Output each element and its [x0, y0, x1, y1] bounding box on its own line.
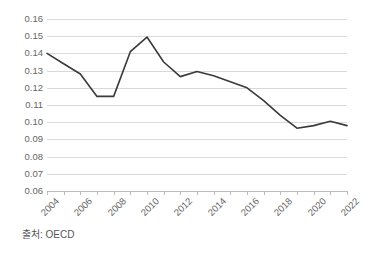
y-axis-tick-label: 0.10	[3, 117, 43, 127]
x-axis-tick-mark	[114, 191, 115, 195]
y-axis-tick-label: 0.11	[3, 100, 43, 110]
x-axis-tick-label: 2022	[333, 196, 361, 224]
x-axis-tick-label: 2012	[166, 196, 194, 224]
x-axis-tick-mark	[297, 191, 298, 195]
y-axis-tick-label: 0.13	[3, 66, 43, 76]
x-axis-tick-mark	[330, 191, 331, 195]
x-axis-tick-label: 2004	[33, 196, 61, 224]
x-axis-tick-mark	[347, 191, 348, 195]
x-axis-tick-mark	[314, 191, 315, 195]
x-axis-tick-label: 2008	[99, 196, 127, 224]
x-axis-tick-mark	[264, 191, 265, 195]
x-axis-tick-mark	[164, 191, 165, 195]
y-axis-tick-label: 0.15	[3, 31, 43, 41]
x-axis-tick-mark	[197, 191, 198, 195]
x-axis-tick-mark	[247, 191, 248, 195]
x-axis-tick-label: 2020	[299, 196, 327, 224]
y-axis-tick-label: 0.06	[3, 186, 43, 196]
x-axis-tick-mark	[97, 191, 98, 195]
y-axis-tick-label: 0.14	[3, 48, 43, 58]
x-axis-tick-mark	[147, 191, 148, 195]
y-axis-tick-label: 0.08	[3, 152, 43, 162]
x-axis-tick-mark	[214, 191, 215, 195]
plot-area	[47, 19, 347, 191]
x-axis-tick-mark	[47, 191, 48, 195]
x-axis-tick-label: 2010	[133, 196, 161, 224]
source-note: 출처: OECD	[22, 229, 74, 241]
x-axis-tick-mark	[180, 191, 181, 195]
x-axis-tick-mark	[130, 191, 131, 195]
chart-figure: 0.160.150.140.130.120.110.100.090.080.07…	[0, 0, 366, 254]
y-axis-tick-label: 0.12	[3, 83, 43, 93]
line-series-svg	[47, 19, 347, 191]
x-axis-tick-label: 2016	[233, 196, 261, 224]
x-axis-tick-mark	[280, 191, 281, 195]
y-axis-tick-label: 0.07	[3, 169, 43, 179]
line-series-path	[47, 37, 347, 128]
x-axis-tick-mark	[230, 191, 231, 195]
x-axis-tick-mark	[64, 191, 65, 195]
x-axis-tick-label: 2018	[266, 196, 294, 224]
x-axis-tick-mark	[80, 191, 81, 195]
x-axis-tick-label: 2006	[66, 196, 94, 224]
x-axis-tick-label: 2014	[199, 196, 227, 224]
y-axis-tick-label: 0.09	[3, 134, 43, 144]
y-axis-tick-label: 0.16	[3, 14, 43, 24]
